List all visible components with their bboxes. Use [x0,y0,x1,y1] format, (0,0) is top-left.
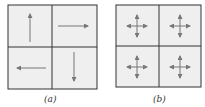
diagram [0,0,205,107]
panel-a [8,5,97,89]
panel-b-label: (b) [153,94,166,104]
panel-a-label: (a) [44,94,56,104]
panel-b [116,5,201,87]
